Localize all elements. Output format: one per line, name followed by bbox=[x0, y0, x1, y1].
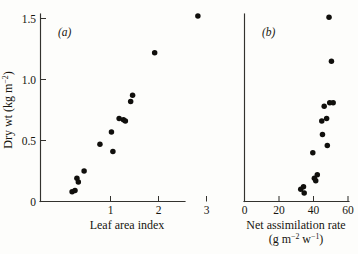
data-point bbox=[319, 118, 325, 124]
panel-a-x-tick-label-2: 2 bbox=[156, 204, 162, 216]
data-point bbox=[110, 149, 116, 155]
data-point bbox=[72, 188, 78, 194]
data-point bbox=[97, 141, 103, 147]
panel-a-label: (a) bbox=[58, 26, 72, 39]
figure-canvas: 1.5 1.0 0.5 0 Dry wt (kg m−2) (a) 1 2 3 … bbox=[0, 0, 358, 254]
y-axis-title-prefix: Dry wt (kg m bbox=[1, 83, 15, 149]
panel-b-unit-sup1: −2 bbox=[291, 232, 299, 241]
panel-b-unit-prefix: (g m bbox=[269, 232, 292, 246]
data-point bbox=[315, 172, 321, 178]
panel-b-unit-sup2: −1 bbox=[311, 232, 319, 241]
data-point bbox=[123, 118, 129, 124]
data-point bbox=[195, 13, 201, 19]
panel-a-x-tick-label-3: 3 bbox=[204, 204, 210, 216]
data-point bbox=[109, 129, 115, 135]
data-point bbox=[301, 184, 307, 190]
data-point bbox=[321, 104, 327, 110]
y-tick-label-0: 0 bbox=[30, 196, 36, 208]
panel-b-x-tick-label-40: 40 bbox=[308, 204, 320, 216]
figure-background bbox=[0, 0, 358, 254]
data-point bbox=[330, 100, 336, 106]
panel-b-unit-mid: w bbox=[299, 232, 311, 246]
panel-b-x-tick-label-20: 20 bbox=[273, 204, 285, 216]
panel-a-x-tick-label-1: 1 bbox=[108, 204, 114, 216]
panel-b-label: (b) bbox=[262, 26, 276, 39]
panel-b-x-tick-label-60: 60 bbox=[342, 204, 354, 216]
data-point bbox=[324, 116, 330, 122]
y-axis-title-sup: −2 bbox=[1, 75, 10, 83]
y-tick-label-0-5: 0.5 bbox=[22, 135, 37, 147]
data-point bbox=[130, 93, 136, 99]
data-point bbox=[326, 15, 332, 21]
data-point bbox=[76, 179, 82, 185]
panel-b-unit-suffix: ) bbox=[319, 232, 323, 246]
data-point bbox=[320, 132, 326, 138]
panel-a-x-axis-title: Leaf area index bbox=[90, 218, 165, 232]
panel-b-x-tick-label-0: 0 bbox=[242, 204, 248, 216]
scatter-figure: 1.5 1.0 0.5 0 Dry wt (kg m−2) (a) 1 2 3 … bbox=[0, 0, 358, 254]
data-point bbox=[128, 99, 134, 105]
y-tick-label-1-0: 1.0 bbox=[22, 74, 37, 86]
data-point bbox=[325, 143, 331, 149]
y-axis-title-suffix: ) bbox=[1, 71, 15, 75]
data-point bbox=[313, 178, 319, 184]
data-point bbox=[310, 150, 316, 156]
y-tick-label-1-5: 1.5 bbox=[22, 13, 37, 25]
data-point bbox=[152, 50, 158, 56]
data-point bbox=[329, 58, 335, 64]
panel-b-x-axis-title-line1: Net assimilation rate bbox=[246, 218, 345, 232]
data-point bbox=[81, 168, 87, 174]
data-point bbox=[301, 190, 307, 196]
